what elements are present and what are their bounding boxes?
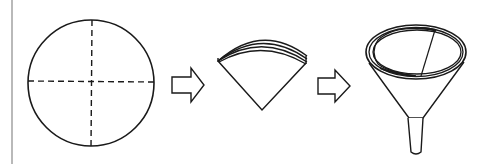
step-3-funnel <box>366 25 466 154</box>
arrow-icon <box>172 68 204 102</box>
funnel-rim-outer <box>366 25 466 79</box>
diagram-canvas: Folding a circular filter paper into a c… <box>0 0 486 164</box>
step-2-folded-fan <box>218 40 307 110</box>
step-1-circular-paper <box>28 20 154 148</box>
funnel-spout <box>408 118 423 154</box>
fan-body <box>218 61 306 110</box>
arrow-icon <box>318 70 350 102</box>
fan-arc-3 <box>218 47 307 62</box>
fold-line-vertical <box>91 20 92 148</box>
